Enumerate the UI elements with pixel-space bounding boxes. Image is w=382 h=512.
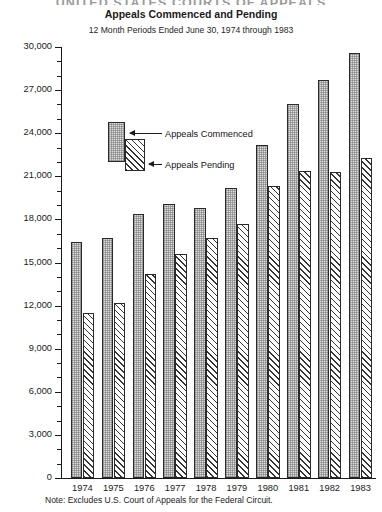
legend-arrow-commenced	[130, 133, 162, 134]
y-tick-major	[55, 47, 62, 48]
y-tick-label: 18,000	[6, 213, 52, 223]
y-tick-major	[55, 263, 62, 264]
bar-pending-1983	[361, 158, 373, 478]
page-title: UNITED STATES COURTS OF APPEALS	[0, 0, 382, 5]
x-tick-label-1981: 1981	[283, 483, 315, 493]
x-tick-label-1975: 1975	[97, 483, 129, 493]
x-tick-label-1980: 1980	[252, 483, 284, 493]
y-tick-major	[55, 176, 62, 177]
x-tick-label-1978: 1978	[190, 483, 222, 493]
y-tick-minor	[57, 104, 62, 105]
y-tick-major	[55, 306, 62, 307]
legend-label-pending: Appeals Pending	[165, 160, 234, 170]
bar-pending-1977	[175, 254, 187, 478]
bar-commenced-1974	[71, 242, 83, 478]
y-tick-label: 24,000	[6, 127, 52, 137]
legend-swatch-pending	[125, 139, 145, 171]
bar-pending-1979	[237, 224, 249, 478]
y-tick-minor	[57, 119, 62, 120]
y-tick-minor	[57, 406, 62, 407]
legend-arrow-pending	[149, 164, 162, 165]
y-tick-label: 30,000	[6, 41, 52, 51]
y-tick-minor	[57, 449, 62, 450]
x-tick-label-1976: 1976	[128, 483, 160, 493]
bar-pending-1981	[299, 171, 311, 478]
y-tick-minor	[57, 248, 62, 249]
x-tick-label-1974: 1974	[66, 483, 98, 493]
bar-commenced-1978	[194, 208, 206, 478]
y-tick-minor	[57, 162, 62, 163]
y-tick-label: 9,000	[6, 343, 52, 353]
y-tick-major	[55, 392, 62, 393]
y-tick-minor	[57, 421, 62, 422]
y-tick-minor	[57, 334, 62, 335]
legend-swatch-commenced	[108, 122, 125, 162]
bar-pending-1980	[268, 186, 280, 478]
y-tick-minor	[57, 61, 62, 62]
bar-commenced-1983	[349, 53, 361, 478]
x-tick-label-1983: 1983	[345, 483, 377, 493]
chart-subtitle: 12 Month Periods Ended June 30, 1974 thr…	[0, 25, 382, 35]
plot-area: 03,0006,0009,00012,00015,00018,00021,000…	[61, 47, 376, 478]
bar-commenced-1977	[163, 204, 175, 478]
y-tick-label: 12,000	[6, 300, 52, 310]
y-tick-label: 0	[6, 472, 52, 482]
y-tick-major	[55, 435, 62, 436]
bar-commenced-1976	[133, 214, 145, 478]
x-axis-line	[61, 478, 376, 479]
x-tick-label-1982: 1982	[314, 483, 346, 493]
y-tick-minor	[57, 377, 62, 378]
y-tick-minor	[57, 205, 62, 206]
x-tick-label-1979: 1979	[221, 483, 253, 493]
y-tick-minor	[57, 277, 62, 278]
y-tick-label: 6,000	[6, 386, 52, 396]
y-tick-minor	[57, 320, 62, 321]
bar-pending-1974	[83, 313, 95, 478]
bar-commenced-1975	[102, 238, 114, 478]
y-tick-minor	[57, 148, 62, 149]
bar-pending-1976	[145, 274, 157, 478]
bar-pending-1982	[330, 172, 342, 478]
bar-commenced-1979	[225, 188, 237, 478]
chart-note: Note: Excludes U.S. Court of Appeals for…	[45, 495, 273, 505]
bar-pending-1978	[206, 238, 218, 478]
bar-commenced-1981	[287, 104, 299, 478]
y-tick-major	[55, 133, 62, 134]
y-tick-minor	[57, 464, 62, 465]
y-tick-label: 27,000	[6, 84, 52, 94]
x-tick-label-1977: 1977	[159, 483, 191, 493]
y-tick-major	[55, 349, 62, 350]
y-tick-minor	[57, 363, 62, 364]
y-tick-minor	[57, 291, 62, 292]
chart-page: UNITED STATES COURTS OF APPEALS Appeals …	[0, 0, 382, 512]
y-tick-minor	[57, 234, 62, 235]
bar-commenced-1982	[318, 80, 330, 478]
legend-label-commenced: Appeals Commenced	[165, 129, 253, 139]
y-tick-major	[55, 219, 62, 220]
y-tick-major	[55, 90, 62, 91]
y-tick-label: 15,000	[6, 257, 52, 267]
bar-commenced-1980	[256, 145, 268, 478]
y-tick-label: 21,000	[6, 170, 52, 180]
y-tick-minor	[57, 76, 62, 77]
bar-pending-1975	[114, 303, 126, 478]
chart-title: Appeals Commenced and Pending	[0, 8, 382, 20]
y-tick-minor	[57, 191, 62, 192]
y-tick-label: 3,000	[6, 429, 52, 439]
y-tick-major	[55, 478, 62, 479]
